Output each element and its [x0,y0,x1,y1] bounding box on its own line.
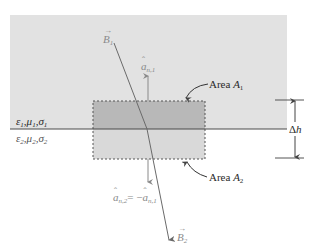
pillbox-lower-half [93,129,205,159]
b2-label: B2 [177,232,187,245]
area-a2-pointer-icon [187,162,207,177]
b1-label: B1 [103,34,113,47]
pillbox-upper-half [93,101,205,129]
medium-2-label: ε2,μ2,σ2 [16,133,47,146]
delta-h-label: Δh [288,124,303,135]
an2-label: an,2= −an,1 [113,192,157,205]
medium-1-label: ε1,μ1,σ1 [16,116,47,129]
area-a2-label: Area A2 [209,172,243,185]
an1-label: an,1 [141,61,155,74]
area-a1-label: Area A1 [209,79,243,92]
